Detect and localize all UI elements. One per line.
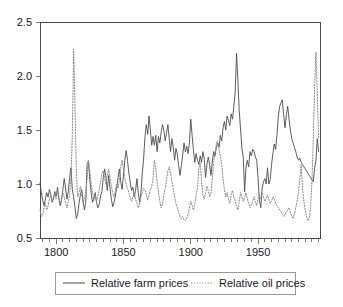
x-tick-label: 1800	[44, 246, 68, 258]
legend-label-farm-prices: Relative farm prices	[91, 277, 189, 289]
y-tick-label: 1.0	[17, 178, 32, 190]
line-chart: 1800185019001950 0.51.01.52.02.5 Relativ…	[0, 0, 343, 307]
chart-background	[0, 0, 343, 307]
y-tick-label: 1.5	[17, 124, 32, 136]
figure-container: 1800185019001950 0.51.01.52.02.5 Relativ…	[0, 0, 343, 307]
y-tick-label: 0.5	[17, 232, 32, 244]
y-tick-label: 2.5	[17, 16, 32, 28]
x-tick-label: 1850	[111, 246, 135, 258]
x-tick-label: 1950	[246, 246, 270, 258]
x-tick-label: 1900	[179, 246, 203, 258]
chart-legend: Relative farm pricesRelative oil prices	[55, 272, 306, 294]
y-tick-label: 2.0	[17, 70, 32, 82]
legend-label-oil-prices: Relative oil prices	[219, 277, 306, 289]
